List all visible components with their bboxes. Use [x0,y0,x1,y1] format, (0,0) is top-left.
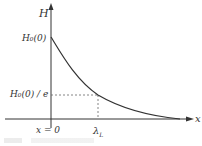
x0-tick-label: x = 0 [36,126,60,135]
y-axis-label: H [39,8,49,19]
lambda-tick-label: λL [93,126,103,138]
x-axis-arrow-icon [186,117,194,122]
decay-diagram [0,0,202,146]
faint-caption [4,138,94,143]
h0-tick-label: H₀(0) [22,34,46,43]
h0-over-e-tick-label: H₀(0) / e [10,90,48,99]
x-axis-label: x [195,114,201,124]
lambda-subscript: L [99,131,103,138]
y-axis-arrow-icon [49,3,54,10]
decay-curve [51,37,180,119]
